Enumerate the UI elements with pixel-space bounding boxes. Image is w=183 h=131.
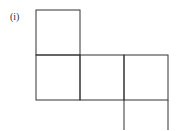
row-square-2 — [80, 55, 124, 100]
row-square-3 — [124, 55, 168, 100]
square-net-diagram — [0, 0, 183, 131]
top-square — [36, 10, 80, 55]
row-square-1 — [36, 55, 80, 100]
